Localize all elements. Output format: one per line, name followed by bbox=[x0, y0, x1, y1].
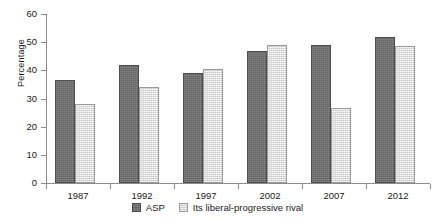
bar-asp-2002 bbox=[247, 51, 267, 183]
bar-asp-2007 bbox=[311, 45, 331, 183]
bar-asp-1997 bbox=[183, 73, 203, 183]
y-tick-label: 30 bbox=[0, 94, 37, 104]
x-tick-label-1992: 1992 bbox=[112, 191, 172, 201]
bar-group-1987 bbox=[46, 14, 110, 183]
bar-rival-2007 bbox=[331, 108, 351, 183]
legend-label: ASP bbox=[146, 203, 165, 213]
y-tick-label: 40 bbox=[0, 65, 37, 75]
x-tick-mark bbox=[174, 184, 175, 189]
bar-group-2012 bbox=[366, 14, 430, 183]
bar-rival-1992 bbox=[139, 87, 159, 183]
bar-rival-1987 bbox=[75, 104, 95, 183]
legend-item-asp: ASP bbox=[132, 203, 165, 213]
bar-group-1992 bbox=[110, 14, 174, 183]
bar-asp-2012 bbox=[375, 37, 395, 183]
y-tick-label: 60 bbox=[0, 9, 37, 19]
bar-rival-2012 bbox=[395, 46, 415, 183]
bar-group-2007 bbox=[302, 14, 366, 183]
legend-item-rival: Its liberal-progressive rival bbox=[179, 203, 303, 213]
y-tick-label: 10 bbox=[0, 150, 37, 160]
x-tick-mark bbox=[366, 184, 367, 189]
bar-asp-1992 bbox=[119, 65, 139, 183]
legend-swatch-icon bbox=[132, 203, 141, 212]
x-tick-mark bbox=[110, 184, 111, 189]
bar-rival-1997 bbox=[203, 69, 223, 183]
x-tick-label-2007: 2007 bbox=[304, 191, 364, 201]
legend-swatch-icon bbox=[179, 203, 188, 212]
bar-rival-2002 bbox=[267, 45, 287, 183]
bar-chart: Percentage 0102030405060 198719921997200… bbox=[0, 0, 435, 224]
bar-group-2002 bbox=[238, 14, 302, 183]
bar-group-1997 bbox=[174, 14, 238, 183]
x-tick-label-1997: 1997 bbox=[176, 191, 236, 201]
plot-area bbox=[46, 14, 430, 183]
legend-label: Its liberal-progressive rival bbox=[193, 203, 303, 213]
x-tick-label-2002: 2002 bbox=[240, 191, 300, 201]
y-tick-label: 50 bbox=[0, 37, 37, 47]
x-tick-mark bbox=[238, 184, 239, 189]
y-tick-label: 0 bbox=[0, 178, 37, 188]
x-tick-mark bbox=[302, 184, 303, 189]
x-tick-mark bbox=[46, 184, 47, 189]
x-tick-label-2012: 2012 bbox=[368, 191, 428, 201]
x-tick-mark bbox=[430, 184, 431, 189]
y-tick-label: 20 bbox=[0, 122, 37, 132]
bar-asp-1987 bbox=[55, 80, 75, 183]
chart-legend: ASPIts liberal-progressive rival bbox=[0, 203, 435, 213]
x-tick-label-1987: 1987 bbox=[48, 191, 108, 201]
